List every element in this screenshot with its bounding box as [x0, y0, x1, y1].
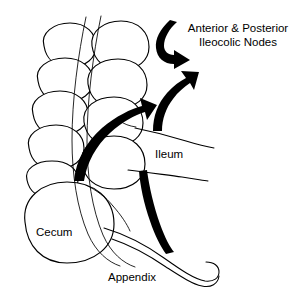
- ileal-arrow-to-nodes-icon: [153, 71, 199, 131]
- ileocolic-nodes-label: Anterior & Posterior Ileocolic Nodes: [186, 22, 290, 49]
- cecum-label: Cecum: [36, 226, 72, 240]
- ileum-label: Ileum: [155, 148, 183, 162]
- ascending-colon-right-haustra: [82, 21, 149, 189]
- appendix-label: Appendix: [108, 271, 156, 285]
- ileocolic-nodes-label-line1: Anterior & Posterior: [186, 22, 290, 36]
- ileocolic-nodes-label-line2: Ileocolic Nodes: [186, 36, 290, 50]
- appendiceal-arrow-icon: [139, 170, 174, 254]
- hook-arrow-to-nodes-icon: [156, 20, 190, 69]
- anatomical-figure: Anterior & Posterior Ileocolic Nodes Ile…: [0, 0, 296, 299]
